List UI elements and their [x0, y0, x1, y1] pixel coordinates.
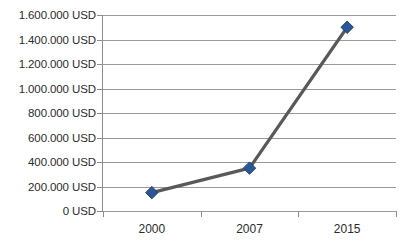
data-point-marker	[146, 186, 158, 198]
line-chart: 0 USD200.000 USD400.000 USD600.000 USD80…	[0, 0, 401, 250]
y-axis-tick	[97, 113, 103, 114]
x-axis-tick	[298, 211, 299, 217]
x-axis-tick	[201, 211, 202, 217]
y-axis-tick	[97, 40, 103, 41]
y-axis-tick	[97, 187, 103, 188]
x-axis-tick	[103, 211, 104, 217]
series-markers	[146, 21, 354, 199]
y-axis-tick	[97, 89, 103, 90]
y-axis-tick	[97, 162, 103, 163]
x-axis-tick	[396, 211, 397, 217]
y-axis-tick	[97, 138, 103, 139]
y-axis-tick	[97, 15, 103, 16]
y-axis-tick	[97, 64, 103, 65]
